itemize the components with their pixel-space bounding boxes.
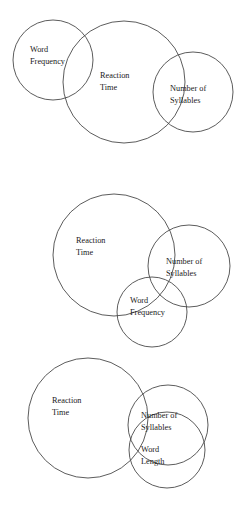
diagram-2-label-word-frequency-line2: Frequency (130, 308, 166, 317)
diagram-2-circle-number-of-syllables (148, 225, 230, 307)
diagram-1-label-word-frequency-line1: Word (30, 45, 49, 54)
venn-figure-svg: Word Frequency Reaction Time Number of S… (0, 0, 246, 511)
diagram-1-label-reaction-time: Reaction Time (100, 71, 132, 92)
diagram-1-label-number-of-syllables: Number of Syllables (170, 84, 208, 105)
diagram-1-label-word-frequency: Word Frequency (30, 45, 66, 66)
diagram-2-label-reaction-time: Reaction Time (76, 236, 108, 257)
diagram-3-label-reaction-time-line2: Time (52, 408, 70, 417)
diagram-2: Reaction Time Number of Syllables Word F… (53, 194, 230, 347)
diagram-3-label-reaction-time-line1: Reaction (52, 396, 82, 405)
venn-figure-stage: Word Frequency Reaction Time Number of S… (0, 0, 246, 511)
diagram-3-label-number-of-syllables-line1: Number of (141, 411, 177, 420)
diagram-3-label-reaction-time: Reaction Time (52, 396, 84, 417)
diagram-3-label-number-of-syllables: Number of Syllables (141, 411, 179, 432)
diagram-1: Word Frequency Reaction Time Number of S… (13, 20, 233, 143)
diagram-1-label-reaction-time-line2: Time (100, 83, 118, 92)
diagram-2-label-number-of-syllables-line1: Number of (166, 257, 202, 266)
diagram-3-label-word-length: Word Length (141, 445, 165, 466)
diagram-2-circle-reaction-time (53, 194, 175, 316)
diagram-1-label-reaction-time-line1: Reaction (100, 71, 130, 80)
diagram-3-label-number-of-syllables-line2: Syllables (141, 423, 171, 432)
diagram-1-label-number-of-syllables-line1: Number of (170, 84, 206, 93)
diagram-3-label-word-length-line2: Length (141, 457, 165, 466)
diagram-1-label-number-of-syllables-line2: Syllables (170, 96, 200, 105)
diagram-3-label-word-length-line1: Word (141, 445, 160, 454)
diagram-1-circle-reaction-time (63, 21, 185, 143)
diagram-1-label-word-frequency-line2: Frequency (30, 57, 66, 66)
diagram-2-label-reaction-time-line2: Time (76, 248, 94, 257)
diagram-2-label-reaction-time-line1: Reaction (76, 236, 106, 245)
diagram-2-label-number-of-syllables-line2: Syllables (166, 269, 196, 278)
diagram-2-label-number-of-syllables: Number of Syllables (166, 257, 204, 278)
diagram-2-label-word-frequency: Word Frequency (130, 296, 166, 317)
diagram-2-label-word-frequency-line1: Word (130, 296, 149, 305)
diagram-3: Reaction Time Number of Syllables Word L… (28, 358, 208, 488)
